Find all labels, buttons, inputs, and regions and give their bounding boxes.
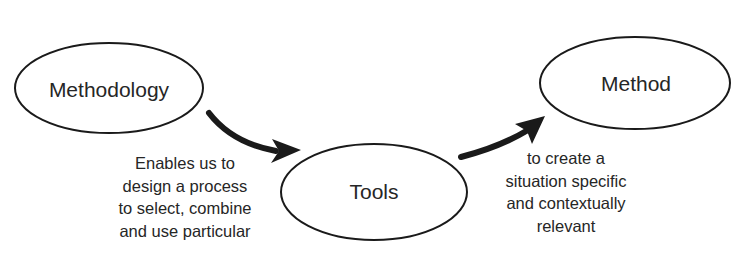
caption-line: relevant bbox=[505, 215, 626, 238]
caption-line: situation specific bbox=[505, 170, 626, 193]
caption-line: Enables us to bbox=[119, 152, 252, 175]
caption-line: and use particular bbox=[119, 220, 252, 243]
arrowhead-icon bbox=[515, 116, 545, 144]
methodology-node-label: Methodology bbox=[49, 78, 169, 102]
method-node-label: Method bbox=[601, 72, 671, 96]
methodology-to-tools-caption: Enables us to design a process to select… bbox=[119, 152, 252, 242]
tools-to-method-caption: to create a situation specific and conte… bbox=[505, 147, 626, 237]
diagram-canvas bbox=[0, 0, 747, 265]
caption-line: and contextually bbox=[505, 192, 626, 215]
caption-line: to select, combine bbox=[119, 197, 252, 220]
caption-line: design a process bbox=[119, 175, 252, 198]
caption-line: to create a bbox=[505, 147, 626, 170]
tools-node-label: Tools bbox=[349, 180, 398, 204]
